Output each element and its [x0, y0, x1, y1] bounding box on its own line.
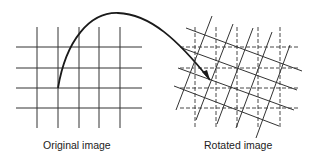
original-grid [16, 27, 142, 128]
rotated-reference-grid [180, 27, 300, 128]
rotated-line-steep [236, 32, 272, 128]
arrow-curve [58, 13, 210, 88]
rotation-diagram [0, 0, 316, 161]
rotated-line-shallow [186, 28, 302, 71]
rotated-grid [174, 16, 302, 138]
rotated-image-caption: Rotated image [204, 139, 272, 151]
rotation-arrow [58, 13, 210, 88]
rotated-line-shallow [174, 86, 279, 126]
original-image-caption: Original image [43, 139, 111, 151]
rotated-line-steep [176, 16, 212, 110]
